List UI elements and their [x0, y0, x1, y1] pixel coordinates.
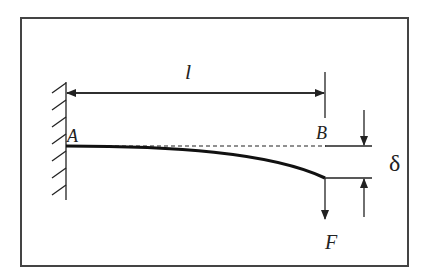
- deflection-label: δ: [389, 150, 400, 176]
- point-a-label: A: [66, 126, 79, 146]
- length-label: l: [185, 59, 191, 84]
- force-label: F: [324, 231, 338, 253]
- deflection-dimension: [325, 110, 372, 217]
- cantilever-diagram: l A B δ F: [0, 0, 425, 279]
- point-b-label: B: [316, 123, 327, 143]
- figure-frame: [21, 18, 408, 266]
- fixed-wall-support: [52, 82, 66, 200]
- deflected-beam: [66, 146, 325, 178]
- length-dimension: [67, 72, 325, 118]
